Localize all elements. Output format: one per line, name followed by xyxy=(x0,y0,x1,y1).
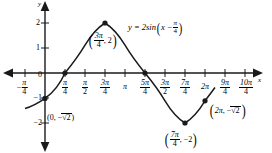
x-tick-label-7pi-over-4: 7π4 xyxy=(180,79,190,96)
x-tick-label-pi-over-4: π4 xyxy=(62,79,68,96)
y-tick-label-0: 0 xyxy=(38,71,42,79)
paren-open-icon: ( xyxy=(210,104,214,118)
y-tick-label-1: 1 xyxy=(36,44,40,52)
x-axis-left-arrow xyxy=(3,69,13,78)
point-y-intercept xyxy=(42,96,47,101)
x-tick-label-9pi-over-4: 9π4 xyxy=(220,79,230,96)
y-axis-label: y xyxy=(38,1,41,8)
x-tick-label-10pi-over-4: 10π4 xyxy=(239,79,253,96)
paren-close-icon: ) xyxy=(179,22,183,34)
radical-icon: √2 xyxy=(230,106,240,116)
x-tick-label-5pi-over-4: 5π4 xyxy=(140,79,150,96)
y-tick-label-2: 2 xyxy=(36,19,40,27)
x-tick-label-minus-pi-over-4: −π4 xyxy=(17,79,28,96)
paren-open-icon: ( xyxy=(165,133,169,147)
paren-close-icon: ) xyxy=(193,133,197,147)
y-tick-label-minus-1: −1 xyxy=(33,94,42,102)
x-tick-label-2pi: 2π xyxy=(201,83,209,91)
x-tick-label-pi-over-2: π2 xyxy=(82,79,88,96)
paren-open-icon: ( xyxy=(157,22,161,34)
x-tick-label-pi: π xyxy=(123,83,127,91)
annotation-endpoint: ( 2π , − √2 ) xyxy=(209,104,246,118)
annotation-y-intercept: (0, − √2 ) xyxy=(47,113,74,123)
point-zero-pi-over-4 xyxy=(62,70,67,75)
annotation-maximum-point: ( 3π4 , 2 ) xyxy=(88,32,117,49)
point-zero-5pi-over-4 xyxy=(142,70,147,75)
graph-figure: 2 1 0 −1 −2 −π4 π4 π2 3π4 π 5π4 3π2 7π4 … xyxy=(0,0,272,153)
radical-icon: √2 xyxy=(61,113,71,123)
equation-annotation: y = 2sin ( x − π4 ) xyxy=(128,20,183,35)
point-minimum xyxy=(182,120,187,125)
y-axis-bottom-arrow xyxy=(41,142,50,152)
paren-close-icon: ) xyxy=(113,34,117,48)
y-axis-top-arrow xyxy=(41,1,50,11)
point-2pi xyxy=(202,98,207,103)
paren-close-icon: ) xyxy=(241,104,245,118)
x-tick-label-3pi-over-4: 3π4 xyxy=(100,79,110,96)
paren-open-icon: ( xyxy=(89,34,93,48)
x-tick-label-3pi-over-2: 3π2 xyxy=(160,79,170,96)
y-tick-label-minus-2: −2 xyxy=(33,119,42,127)
x-axis-label: x xyxy=(258,77,261,84)
point-maximum xyxy=(102,20,107,25)
annotation-minimum-point: ( 7π4 , −2 ) xyxy=(164,131,198,148)
